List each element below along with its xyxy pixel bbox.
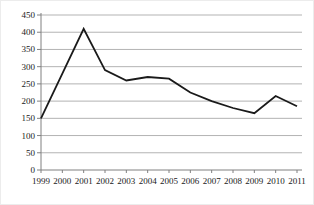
x-axis-tick-label: 2009: [245, 176, 264, 186]
x-axis-tick-label: 2010: [267, 176, 286, 186]
data-line: [41, 29, 297, 119]
y-axis-tick-label: 300: [22, 62, 36, 72]
line-chart: 0501001502002503003504004501999200020012…: [0, 0, 314, 205]
y-axis-tick-label: 250: [22, 79, 36, 89]
x-axis-tick-label: 2004: [139, 176, 158, 186]
y-axis-tick-label: 400: [22, 27, 36, 37]
y-axis-tick-label: 150: [22, 113, 36, 123]
x-axis-tick-label: 1999: [32, 176, 51, 186]
x-axis-tick-label: 2006: [181, 176, 200, 186]
x-axis-tick-label: 2005: [160, 176, 179, 186]
x-axis-tick-label: 2008: [224, 176, 243, 186]
x-axis-tick-label: 2000: [53, 176, 72, 186]
y-axis-tick-label: 100: [22, 131, 36, 141]
chart-svg: 0501001502002503003504004501999200020012…: [1, 1, 314, 205]
y-axis-tick-label: 200: [22, 96, 36, 106]
y-axis-tick-label: 450: [22, 10, 36, 20]
x-axis-tick-label: 2002: [96, 176, 114, 186]
x-axis-tick-label: 2007: [203, 176, 222, 186]
y-axis-tick-label: 0: [31, 165, 36, 175]
x-axis-tick-label: 2001: [75, 176, 93, 186]
y-axis-tick-label: 50: [26, 148, 36, 158]
x-axis-tick-label: 2011: [288, 176, 306, 186]
y-axis-tick-label: 350: [22, 44, 36, 54]
x-axis-tick-label: 2003: [117, 176, 136, 186]
